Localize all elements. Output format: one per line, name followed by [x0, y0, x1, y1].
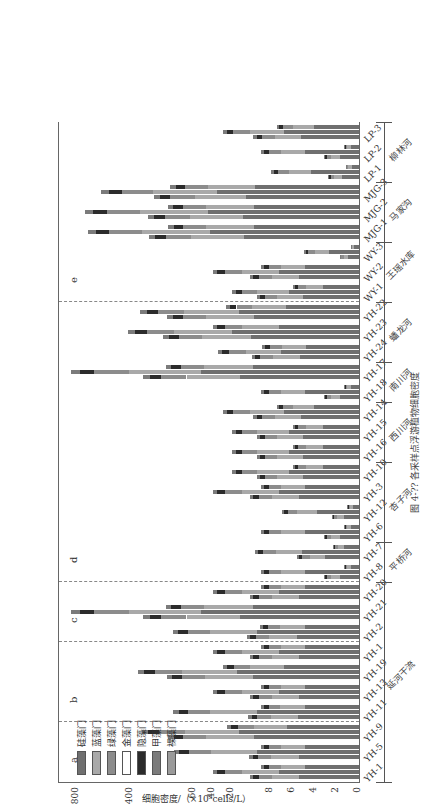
bar-segment	[273, 355, 300, 359]
bar-segment	[269, 685, 281, 689]
bar-segment	[250, 695, 253, 699]
bar-segment	[254, 225, 359, 229]
bar-segment	[335, 545, 338, 549]
bar-segment	[204, 605, 252, 609]
bar-segment	[256, 635, 269, 639]
data-bar	[261, 485, 359, 489]
bar-segment	[109, 230, 142, 234]
value-tick-label: 4	[308, 787, 318, 808]
value-tick-label: 400	[124, 787, 134, 808]
data-bar	[282, 510, 359, 514]
region-letter: e	[68, 277, 79, 283]
category-label: LP-3	[362, 123, 383, 144]
bar-segment	[295, 445, 298, 449]
data-bar	[351, 245, 359, 249]
legend-label: 甲藻门	[150, 720, 163, 747]
bar-segment	[184, 310, 239, 314]
bar-segment	[306, 445, 323, 449]
bar-segment	[305, 570, 359, 574]
bar-segment	[255, 550, 258, 554]
data-bar	[262, 345, 359, 349]
bar-segment	[206, 205, 254, 209]
bar-segment	[269, 645, 281, 649]
bar-segment	[299, 695, 359, 699]
bar-segment	[173, 205, 183, 209]
data-bar	[71, 610, 359, 614]
data-bar	[346, 165, 359, 169]
bar-segment	[272, 595, 299, 599]
bar-segment	[217, 270, 224, 274]
bar-segment	[352, 245, 354, 249]
value-tick-label: 0	[352, 787, 362, 808]
legend-item: 硅藻门	[75, 720, 88, 775]
bar-segment	[264, 390, 269, 394]
bar-segment	[165, 215, 190, 219]
data-bar	[293, 285, 359, 289]
bar-segment	[109, 190, 122, 194]
bar-segment	[345, 525, 346, 529]
bar-segment	[174, 225, 184, 229]
bar-segment	[183, 315, 206, 319]
bar-segment	[281, 645, 305, 649]
bar-segment	[190, 215, 243, 219]
category-label: WY-2	[362, 261, 385, 284]
bar-segment	[352, 165, 359, 169]
bar-segment	[306, 345, 359, 349]
bar-segment	[172, 675, 182, 679]
bar-segment	[280, 625, 305, 629]
bar-segment	[305, 150, 359, 154]
bar-segment	[211, 750, 257, 754]
bar-segment	[176, 185, 185, 189]
bar-segment	[257, 295, 260, 299]
bar-segment	[262, 415, 275, 419]
legend-item: 绿藻门	[105, 720, 118, 775]
bar-segment	[325, 575, 327, 579]
bar-segment	[259, 595, 272, 599]
bar-segment	[232, 470, 236, 474]
value-tick-label: 6	[286, 787, 296, 808]
bar-segment	[299, 275, 359, 279]
bar-segment	[264, 705, 269, 709]
data-bar	[257, 295, 359, 299]
bar-segment	[324, 155, 325, 159]
bar-segment	[279, 770, 359, 774]
data-bar	[213, 690, 359, 694]
bar-segment	[347, 525, 351, 529]
data-bar	[232, 450, 359, 454]
bar-segment	[288, 510, 297, 514]
bar-segment	[342, 175, 359, 179]
bar-segment	[140, 210, 209, 214]
group-bracket-tick	[376, 242, 392, 243]
bar-segment	[201, 610, 359, 614]
bar-segment	[265, 455, 277, 459]
region-divider	[59, 581, 359, 582]
data-bar	[324, 395, 359, 399]
bar-segment	[253, 605, 359, 609]
data-bar	[148, 215, 359, 219]
group-bracket-tick	[376, 302, 392, 303]
group-bracket-tick	[376, 182, 392, 183]
bar-segment	[217, 590, 224, 594]
bar-segment	[191, 235, 243, 239]
bar-segment	[345, 565, 347, 569]
bar-segment	[226, 305, 230, 309]
bar-segment	[269, 150, 281, 154]
bar-segment	[281, 390, 305, 394]
legend-label: 绿藻门	[105, 720, 118, 747]
data-bar	[167, 315, 359, 319]
bar-segment	[254, 315, 359, 319]
bar-segment	[260, 455, 265, 459]
bar-segment	[272, 695, 299, 699]
bar-segment	[279, 325, 359, 329]
bar-segment	[227, 410, 234, 414]
bar-segment	[258, 550, 263, 554]
bar-segment	[279, 690, 359, 694]
bar-segment	[250, 275, 253, 279]
bar-segment	[275, 415, 301, 419]
bar-segment	[234, 665, 250, 669]
bar-segment	[154, 215, 165, 219]
bar-segment	[232, 290, 236, 294]
bar-segment	[261, 570, 264, 574]
bar-segment	[218, 350, 222, 354]
bar-segment	[254, 205, 359, 209]
